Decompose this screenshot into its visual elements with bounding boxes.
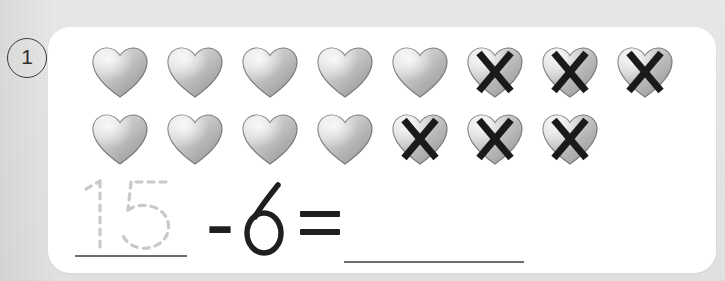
heart-icon [317, 47, 373, 99]
heart-icon [392, 114, 448, 166]
heart-counter[interactable] [238, 112, 313, 172]
heart-icon [617, 47, 673, 99]
heart-icon [467, 114, 523, 166]
subtrahend-svg [240, 177, 292, 261]
traced-digit-1 [86, 181, 100, 247]
heart-crossed-out[interactable] [613, 45, 688, 105]
heart-icon [92, 114, 148, 166]
heart-icon [92, 47, 148, 99]
heart-row-2 [88, 112, 613, 172]
heart-crossed-out[interactable] [538, 112, 613, 172]
heart-icon [542, 114, 598, 166]
heart-icon [392, 47, 448, 99]
heart-crossed-out[interactable] [388, 112, 463, 172]
heart-counter[interactable] [163, 45, 238, 105]
heart-counter[interactable] [238, 45, 313, 105]
heart-counter[interactable] [313, 45, 388, 105]
minus-operator: – [200, 197, 240, 255]
minuend-write-line[interactable] [75, 255, 187, 257]
traced-minuend-svg [78, 177, 198, 252]
heart-counter[interactable] [88, 45, 163, 105]
traced-minuend-15 [78, 177, 198, 252]
problem-number-badge: 1 [7, 38, 47, 78]
heart-icon [317, 114, 373, 166]
heart-crossed-out[interactable] [463, 112, 538, 172]
subtrahend-6 [240, 177, 292, 261]
equals-operator [296, 191, 348, 257]
worksheet-page: 1 [0, 0, 725, 281]
heart-icon [467, 47, 523, 99]
heart-counter[interactable] [163, 112, 238, 172]
heart-icon [242, 114, 298, 166]
heart-counter[interactable] [88, 112, 163, 172]
heart-icon [167, 47, 223, 99]
heart-icon [167, 114, 223, 166]
heart-counter[interactable] [313, 112, 388, 172]
heart-crossed-out[interactable] [463, 45, 538, 105]
heart-icon [542, 47, 598, 99]
answer-write-line[interactable] [344, 261, 524, 263]
traced-digit-5 [122, 182, 169, 248]
equation-area: – [48, 175, 716, 273]
heart-counter[interactable] [388, 45, 463, 105]
heart-icon [242, 47, 298, 99]
heart-row-1 [88, 45, 688, 105]
heart-crossed-out[interactable] [538, 45, 613, 105]
equals-svg [296, 191, 348, 257]
problem-card: – [48, 27, 716, 273]
